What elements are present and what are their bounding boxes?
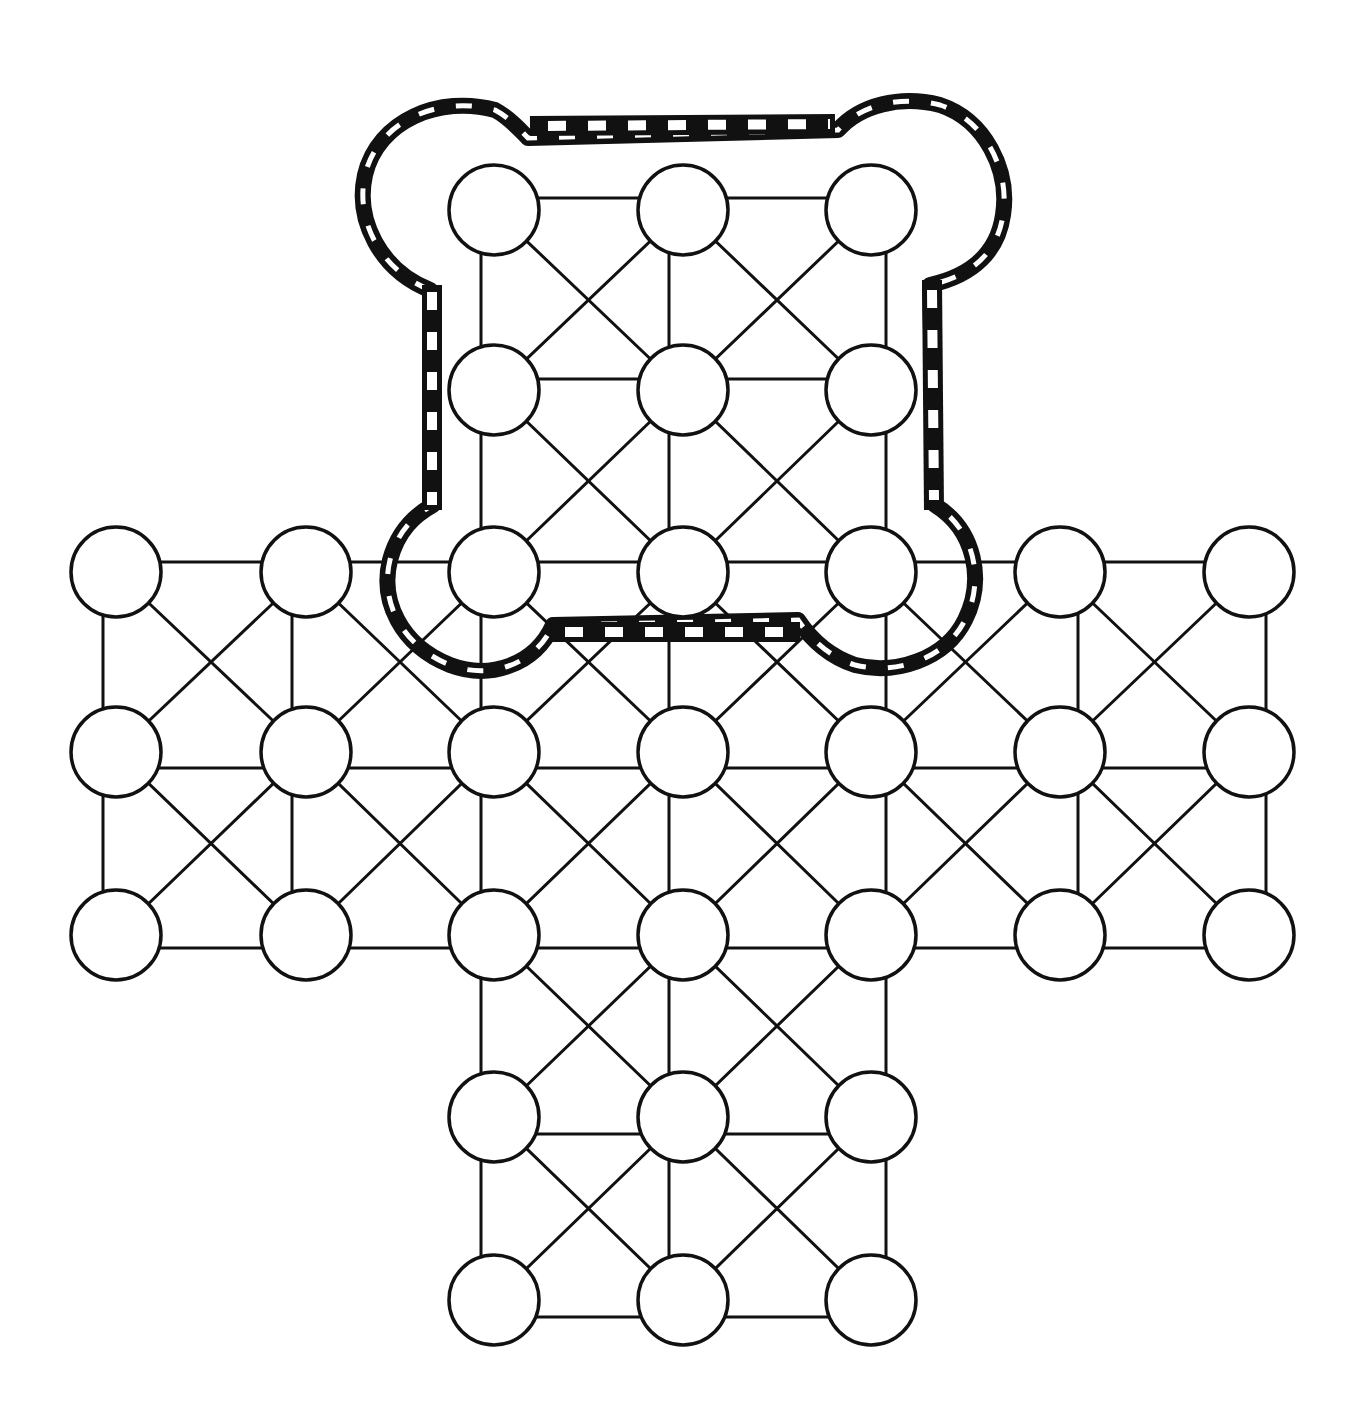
board-point-n32[interactable]: [638, 1255, 728, 1345]
board-point-n6[interactable]: [826, 345, 916, 435]
board-point-n4[interactable]: [449, 345, 539, 435]
board-point-n29[interactable]: [638, 1072, 728, 1162]
fortress-wall-right: [932, 280, 934, 510]
board-point-n12[interactable]: [1015, 527, 1105, 617]
board-point-n20[interactable]: [1204, 707, 1294, 797]
board-point-n3[interactable]: [826, 165, 916, 255]
board-point-n2[interactable]: [638, 165, 728, 255]
board-point-n11[interactable]: [826, 527, 916, 617]
board-point-n15[interactable]: [261, 707, 351, 797]
board-point-n27[interactable]: [1204, 890, 1294, 980]
game-board: [0, 0, 1366, 1414]
board-point-n31[interactable]: [449, 1255, 539, 1345]
board-point-n7[interactable]: [71, 527, 161, 617]
board-point-n23[interactable]: [449, 890, 539, 980]
board-point-n22[interactable]: [261, 890, 351, 980]
board-point-n16[interactable]: [449, 707, 539, 797]
board-nodes: [71, 165, 1294, 1345]
board-point-n33[interactable]: [826, 1255, 916, 1345]
board-point-n13[interactable]: [1204, 527, 1294, 617]
board-point-n30[interactable]: [826, 1072, 916, 1162]
board-point-n19[interactable]: [1015, 707, 1105, 797]
board-point-n26[interactable]: [1015, 890, 1105, 980]
board-point-n21[interactable]: [71, 890, 161, 980]
board-point-n10[interactable]: [638, 527, 728, 617]
board-point-n28[interactable]: [449, 1072, 539, 1162]
board-point-n1[interactable]: [449, 165, 539, 255]
board-point-n5[interactable]: [638, 345, 728, 435]
board-point-n8[interactable]: [261, 527, 351, 617]
board-point-n17[interactable]: [638, 707, 728, 797]
board-point-n24[interactable]: [638, 890, 728, 980]
board-point-n18[interactable]: [826, 707, 916, 797]
board-point-n9[interactable]: [449, 527, 539, 617]
board-point-n14[interactable]: [71, 707, 161, 797]
board-point-n25[interactable]: [826, 890, 916, 980]
